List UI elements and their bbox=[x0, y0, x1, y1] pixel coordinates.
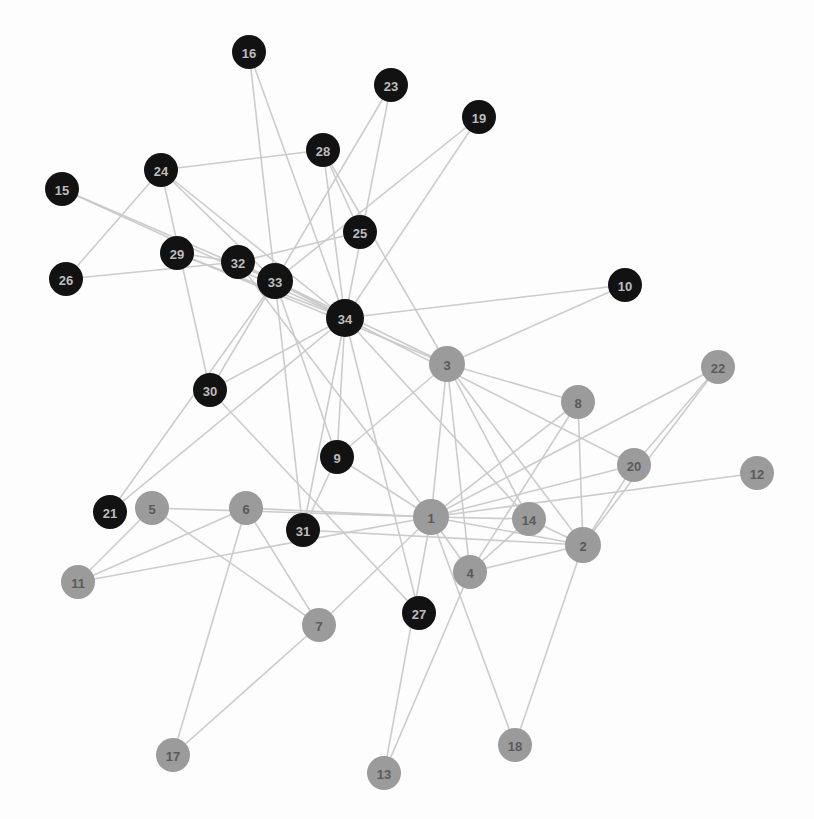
node-32[interactable]: 32 bbox=[221, 245, 255, 279]
node-16[interactable]: 16 bbox=[232, 35, 266, 69]
node-26[interactable]: 26 bbox=[49, 262, 83, 296]
node-circle-24[interactable] bbox=[144, 153, 178, 187]
node-circle-32[interactable] bbox=[221, 245, 255, 279]
node-circle-29[interactable] bbox=[160, 236, 194, 270]
nodes-layer: 1234567891011121314151617181920212223242… bbox=[45, 35, 774, 790]
edge-33-23 bbox=[275, 85, 391, 281]
node-circle-27[interactable] bbox=[402, 596, 436, 630]
edge-28-24 bbox=[161, 150, 323, 170]
edge-18-1 bbox=[431, 517, 515, 745]
node-circle-17[interactable] bbox=[156, 738, 190, 772]
edge-22-2 bbox=[583, 367, 718, 545]
node-28[interactable]: 28 bbox=[306, 133, 340, 167]
edge-32-26 bbox=[66, 262, 238, 279]
node-circle-18[interactable] bbox=[498, 728, 532, 762]
node-circle-9[interactable] bbox=[320, 440, 354, 474]
node-circle-13[interactable] bbox=[367, 756, 401, 790]
node-circle-4[interactable] bbox=[453, 555, 487, 589]
node-circle-8[interactable] bbox=[561, 385, 595, 419]
node-circle-1[interactable] bbox=[413, 499, 449, 535]
edge-8-3 bbox=[447, 364, 578, 402]
edge-18-2 bbox=[515, 545, 583, 745]
node-22[interactable]: 22 bbox=[701, 350, 735, 384]
node-circle-15[interactable] bbox=[45, 172, 79, 206]
node-circle-2[interactable] bbox=[565, 527, 601, 563]
node-circle-34[interactable] bbox=[326, 299, 364, 337]
edge-32-1 bbox=[238, 262, 431, 517]
node-circle-23[interactable] bbox=[374, 68, 408, 102]
node-2[interactable]: 2 bbox=[565, 527, 601, 563]
edge-17-7 bbox=[173, 625, 319, 755]
node-circle-22[interactable] bbox=[701, 350, 735, 384]
node-9[interactable]: 9 bbox=[320, 440, 354, 474]
node-12[interactable]: 12 bbox=[740, 456, 774, 490]
node-27[interactable]: 27 bbox=[402, 596, 436, 630]
node-20[interactable]: 20 bbox=[617, 448, 651, 482]
edge-33-19 bbox=[275, 117, 479, 281]
node-circle-11[interactable] bbox=[61, 565, 95, 599]
edge-10-3 bbox=[447, 285, 625, 364]
node-11[interactable]: 11 bbox=[61, 565, 95, 599]
node-circle-12[interactable] bbox=[740, 456, 774, 490]
node-circle-31[interactable] bbox=[286, 513, 320, 547]
node-23[interactable]: 23 bbox=[374, 68, 408, 102]
node-circle-33[interactable] bbox=[257, 263, 293, 299]
node-21[interactable]: 21 bbox=[93, 495, 127, 529]
edge-33-30 bbox=[210, 281, 275, 390]
node-15[interactable]: 15 bbox=[45, 172, 79, 206]
edge-17-6 bbox=[173, 508, 246, 755]
node-circle-30[interactable] bbox=[193, 373, 227, 407]
node-circle-5[interactable] bbox=[135, 491, 169, 525]
node-24[interactable]: 24 bbox=[144, 153, 178, 187]
node-7[interactable]: 7 bbox=[302, 608, 336, 642]
node-circle-21[interactable] bbox=[93, 495, 127, 529]
edge-34-15 bbox=[62, 189, 345, 318]
edge-20-22 bbox=[634, 367, 718, 465]
node-circle-3[interactable] bbox=[429, 346, 465, 382]
network-svg[interactable]: 1234567891011121314151617181920212223242… bbox=[0, 0, 814, 819]
node-circle-10[interactable] bbox=[608, 268, 642, 302]
node-25[interactable]: 25 bbox=[343, 215, 377, 249]
node-8[interactable]: 8 bbox=[561, 385, 595, 419]
edge-8-2 bbox=[578, 402, 583, 545]
node-13[interactable]: 13 bbox=[367, 756, 401, 790]
edge-3-1 bbox=[431, 364, 447, 517]
edge-29-3 bbox=[177, 253, 447, 364]
node-3[interactable]: 3 bbox=[429, 346, 465, 382]
node-31[interactable]: 31 bbox=[286, 513, 320, 547]
node-4[interactable]: 4 bbox=[453, 555, 487, 589]
edge-34-27 bbox=[345, 318, 419, 613]
node-circle-16[interactable] bbox=[232, 35, 266, 69]
network-graph-canvas: 1234567891011121314151617181920212223242… bbox=[0, 0, 814, 819]
edge-34-30 bbox=[210, 318, 345, 390]
node-circle-6[interactable] bbox=[229, 491, 263, 525]
node-14[interactable]: 14 bbox=[512, 502, 546, 536]
edge-11-1 bbox=[78, 517, 431, 582]
node-29[interactable]: 29 bbox=[160, 236, 194, 270]
node-circle-28[interactable] bbox=[306, 133, 340, 167]
node-33[interactable]: 33 bbox=[257, 263, 293, 299]
node-34[interactable]: 34 bbox=[326, 299, 364, 337]
edge-34-10 bbox=[345, 285, 625, 318]
node-circle-14[interactable] bbox=[512, 502, 546, 536]
edge-4-3 bbox=[447, 364, 470, 572]
node-10[interactable]: 10 bbox=[608, 268, 642, 302]
node-30[interactable]: 30 bbox=[193, 373, 227, 407]
node-1[interactable]: 1 bbox=[413, 499, 449, 535]
node-19[interactable]: 19 bbox=[462, 100, 496, 134]
node-18[interactable]: 18 bbox=[498, 728, 532, 762]
node-circle-20[interactable] bbox=[617, 448, 651, 482]
node-circle-26[interactable] bbox=[49, 262, 83, 296]
node-circle-19[interactable] bbox=[462, 100, 496, 134]
node-circle-7[interactable] bbox=[302, 608, 336, 642]
node-circle-25[interactable] bbox=[343, 215, 377, 249]
node-17[interactable]: 17 bbox=[156, 738, 190, 772]
node-5[interactable]: 5 bbox=[135, 491, 169, 525]
edge-26-24 bbox=[66, 170, 161, 279]
node-6[interactable]: 6 bbox=[229, 491, 263, 525]
